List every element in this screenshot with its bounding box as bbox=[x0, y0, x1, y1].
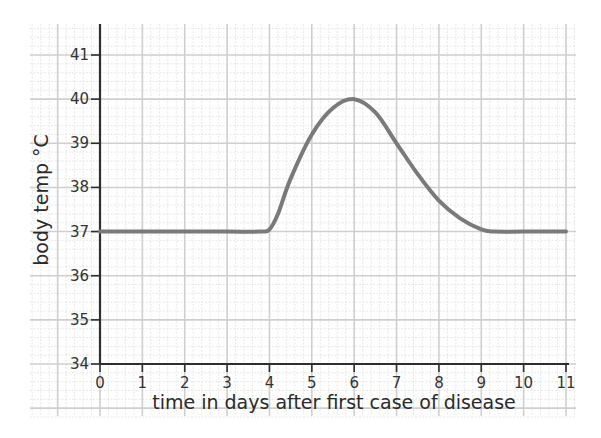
y-tick-label: 39 bbox=[70, 134, 89, 152]
x-tick-label: 0 bbox=[95, 374, 105, 392]
y-tick-label: 34 bbox=[70, 355, 89, 373]
y-tick-label: 37 bbox=[70, 223, 89, 241]
x-tick-label: 10 bbox=[514, 374, 533, 392]
y-axis-title: body temp °C bbox=[30, 134, 52, 266]
axis-tick-labels: 012345678910113435363738394041 bbox=[70, 46, 576, 392]
x-tick-label: 8 bbox=[434, 374, 444, 392]
x-tick-label: 4 bbox=[265, 374, 275, 392]
x-axis-title: time in days after first case of disease bbox=[152, 391, 516, 413]
y-tick-label: 41 bbox=[70, 46, 89, 64]
x-tick-label: 1 bbox=[138, 374, 148, 392]
x-tick-label: 11 bbox=[556, 374, 575, 392]
grid-minor bbox=[30, 24, 576, 417]
x-tick-label: 2 bbox=[180, 374, 190, 392]
fever-temperature-chart: 012345678910113435363738394041 time in d… bbox=[0, 0, 601, 438]
x-tick-label: 5 bbox=[307, 374, 317, 392]
x-tick-label: 6 bbox=[349, 374, 359, 392]
y-tick-label: 36 bbox=[70, 267, 89, 285]
y-tick-label: 35 bbox=[70, 311, 89, 329]
x-tick-label: 9 bbox=[476, 374, 486, 392]
y-tick-label: 40 bbox=[70, 90, 89, 108]
y-tick-label: 38 bbox=[70, 178, 89, 196]
axes bbox=[100, 24, 569, 364]
x-tick-label: 7 bbox=[392, 374, 402, 392]
temperature-curve bbox=[100, 99, 566, 232]
x-tick-label: 3 bbox=[222, 374, 232, 392]
